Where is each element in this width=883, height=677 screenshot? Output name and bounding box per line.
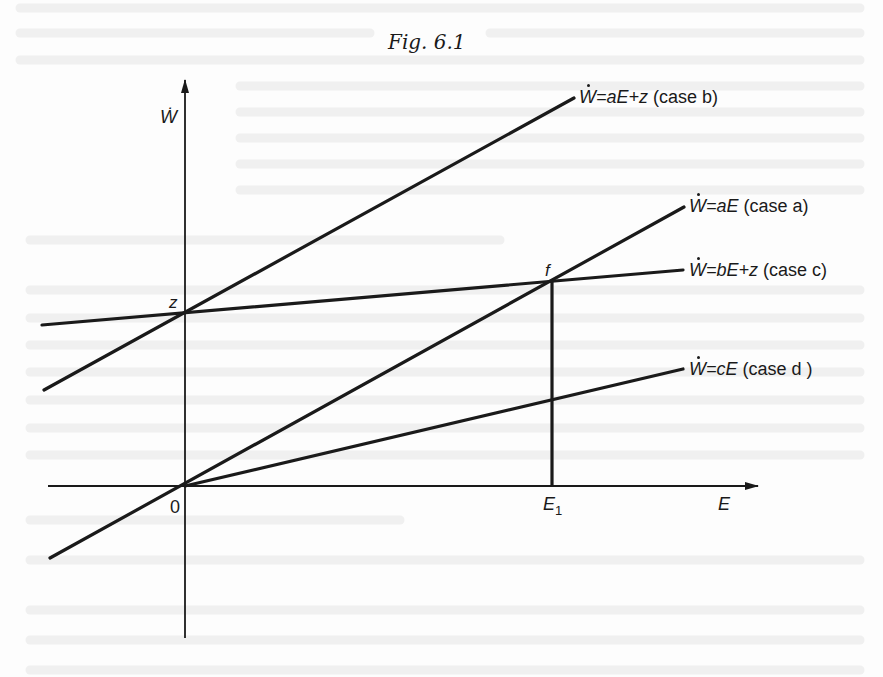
point-f-label: f (545, 262, 550, 279)
line-case-a (50, 207, 684, 558)
case-text: (case c) (763, 260, 827, 280)
line-case-b (44, 98, 574, 390)
point-z-label: z (169, 294, 178, 311)
w-dot-symbol: W (689, 261, 706, 279)
w-dot-symbol: W (579, 88, 596, 106)
case-text: (case a) (744, 196, 809, 216)
origin-label: 0 (170, 498, 180, 516)
case-text: (case b) (653, 87, 718, 107)
point-e1-label: E1 (543, 495, 562, 513)
label-case-b: W=aE+z (case b) (579, 88, 718, 106)
case-text: (case d ) (743, 359, 813, 379)
w-dot-symbol: W (689, 197, 706, 215)
line-case-d (185, 369, 683, 486)
equation-rhs: =cE (706, 359, 738, 379)
w-dot-symbol: W (689, 360, 706, 378)
label-case-c: W=bE+z (case c) (689, 261, 827, 279)
label-case-d: W=cE (case d ) (689, 360, 813, 378)
y-axis-label: Ẇ (160, 108, 177, 126)
equation-rhs: =aE (706, 196, 739, 216)
equation-rhs: =aE+z (596, 87, 648, 107)
e1-subscript: 1 (555, 503, 562, 518)
label-case-a: W=aE (case a) (689, 197, 809, 215)
x-axis-label: E (718, 495, 730, 513)
diagram-canvas (0, 0, 883, 677)
page-background: Fig. 6.1 Ẇ E 0 z f E1 W=aE+z (case b) (0, 0, 883, 677)
e1-main: E (543, 494, 555, 514)
line-case-c (42, 270, 683, 325)
equation-rhs: =bE+z (706, 260, 758, 280)
